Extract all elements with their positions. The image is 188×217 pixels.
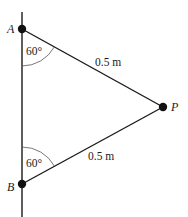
point-p-label: P (170, 100, 179, 114)
angle-a-label: 60° (26, 45, 43, 57)
point-p-dot (159, 103, 167, 111)
segment-ap (22, 29, 163, 107)
length-ap-label: 0.5 m (95, 56, 121, 68)
point-b-dot (18, 180, 26, 188)
angle-b-label: 60° (26, 157, 43, 169)
point-a-dot (18, 25, 26, 33)
point-b-label: B (7, 180, 15, 194)
length-bp-label: 0.5 m (88, 150, 114, 162)
segment-bp (22, 107, 163, 184)
triangle-diagram: A B P 60° 60° 0.5 m 0.5 m (0, 0, 188, 217)
point-a-label: A (6, 22, 15, 36)
